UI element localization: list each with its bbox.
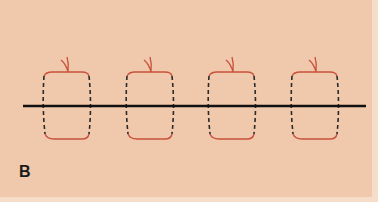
figure-panel: B	[0, 0, 372, 197]
suture-loop-2	[126, 57, 173, 139]
knot-icon	[226, 57, 233, 72]
suture-loop-4	[291, 57, 338, 139]
panel-label: B	[19, 164, 31, 180]
suture-loop-1	[43, 57, 90, 139]
knot-icon	[61, 57, 68, 72]
interrupted-suture-diagram	[0, 0, 378, 202]
suture-loop-3	[208, 57, 255, 139]
knot-icon	[144, 57, 151, 72]
knot-icon	[309, 57, 316, 72]
